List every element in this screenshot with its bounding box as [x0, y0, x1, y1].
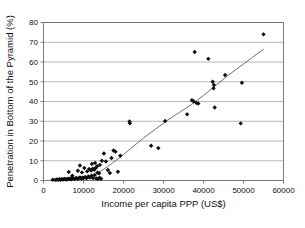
- x-tick-label: 40000: [192, 186, 215, 195]
- data-point: [193, 50, 197, 54]
- x-tick-label: 50000: [232, 186, 255, 195]
- y-tick-label: 20: [29, 137, 38, 146]
- data-point: [102, 151, 106, 155]
- data-point: [261, 32, 265, 36]
- data-point: [239, 121, 243, 125]
- data-point: [163, 119, 167, 123]
- y-tick-label: 0: [34, 176, 39, 185]
- x-tick-label: 30000: [152, 186, 175, 195]
- y-tick-label: 50: [29, 78, 38, 87]
- data-point: [118, 154, 122, 158]
- data-point: [149, 144, 153, 148]
- chart-container: 0102030405060708001000020000300004000050…: [0, 0, 305, 228]
- data-point: [240, 81, 244, 85]
- y-tick-label: 60: [29, 58, 38, 67]
- data-point: [156, 146, 160, 150]
- data-point: [76, 169, 80, 173]
- data-point: [100, 159, 104, 163]
- y-tick-label: 10: [29, 157, 38, 166]
- x-tick-label: 0: [41, 186, 46, 195]
- data-point: [78, 163, 82, 167]
- y-tick-label: 70: [29, 38, 38, 47]
- data-point: [93, 161, 97, 165]
- y-tick-label: 30: [29, 117, 38, 126]
- y-tick-label: 40: [29, 97, 38, 106]
- data-point: [90, 162, 94, 166]
- y-tick-label: 80: [29, 18, 38, 27]
- x-tick-label: 20000: [112, 186, 135, 195]
- trend-line: [86, 49, 264, 179]
- x-tick-label: 60000: [272, 186, 295, 195]
- data-point: [116, 170, 120, 174]
- data-point: [82, 166, 86, 170]
- scatter-chart: 0102030405060708001000020000300004000050…: [0, 0, 305, 228]
- data-point: [67, 170, 71, 174]
- data-point: [213, 105, 217, 109]
- data-point: [109, 156, 113, 160]
- x-tick-label: 10000: [72, 186, 95, 195]
- data-point: [104, 159, 108, 163]
- data-point: [185, 112, 189, 116]
- data-point: [206, 57, 210, 61]
- data-point: [211, 86, 215, 90]
- data-point: [80, 170, 84, 174]
- x-axis-title: Income per capita PPP (US$): [101, 198, 225, 209]
- y-axis-title: Penetration in Bottom of the Pyramid (%): [4, 15, 15, 188]
